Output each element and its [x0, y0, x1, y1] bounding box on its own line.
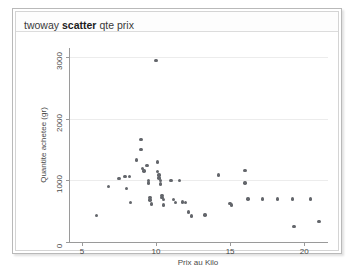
data-point: [292, 225, 295, 228]
data-point: [246, 197, 249, 200]
y-axis-title: Quantite achetee (gr): [38, 48, 48, 242]
graph-window-frame: twowayscatterqte prix Quantite achetee (…: [12, 8, 342, 254]
x-axis-tick-label: 10: [152, 247, 161, 256]
data-point: [178, 179, 181, 182]
data-point: [203, 213, 206, 216]
y-axis-tick-label-text: 2000: [56, 114, 64, 132]
gridline-horizontal: [70, 119, 328, 120]
data-point: [117, 177, 120, 180]
data-point: [95, 214, 98, 217]
y-axis-tick: [66, 119, 70, 120]
graph-window-inner: twowayscatterqte prix Quantite achetee (…: [15, 11, 339, 251]
data-point: [174, 201, 177, 204]
x-axis-tick-label: 20: [300, 247, 309, 256]
data-point: [162, 198, 165, 201]
y-axis-tick: [66, 242, 70, 243]
scatter-plot: Quantite achetee (gr) 010002000300051015…: [16, 32, 338, 250]
data-point: [184, 201, 187, 204]
data-point: [147, 181, 150, 184]
data-point: [125, 187, 128, 190]
data-point: [230, 203, 233, 206]
x-axis-tick-label: 15: [226, 247, 235, 256]
y-axis-tick-label-text: 3000: [56, 52, 64, 70]
x-axis-tick-label: 5: [80, 247, 84, 256]
y-axis-tick-label: 2000: [60, 123, 68, 141]
data-point: [107, 185, 110, 188]
x-axis-title: Prix au Kilo: [69, 258, 327, 267]
command-keyword: scatter: [62, 19, 96, 31]
y-axis-tick-label: 0: [60, 246, 68, 250]
data-point: [139, 138, 142, 141]
data-point: [135, 158, 138, 161]
command-line[interactable]: twowayscatterqte prix: [16, 12, 338, 32]
data-point: [243, 169, 246, 172]
data-point: [159, 182, 162, 185]
x-axis-tick: [82, 242, 83, 246]
data-point: [317, 220, 320, 223]
y-axis-tick-label: 3000: [60, 61, 68, 79]
data-point: [169, 179, 172, 182]
data-point: [156, 160, 159, 163]
y-axis-tick-label-text: 1000: [56, 176, 64, 194]
command-args: qte prix: [99, 19, 133, 31]
data-point: [150, 202, 153, 205]
y-axis-tick: [66, 57, 70, 58]
data-point: [190, 214, 193, 217]
data-point: [128, 175, 131, 178]
plot-area: 01000200030005101520: [69, 48, 328, 243]
data-point: [243, 181, 246, 184]
data-point: [154, 59, 157, 62]
gridline-horizontal: [70, 57, 328, 58]
x-axis-tick: [304, 242, 305, 246]
screenshot-root: twowayscatterqte prix Quantite achetee (…: [0, 0, 364, 280]
y-axis-tick-label: 1000: [60, 184, 68, 202]
data-point: [291, 197, 294, 200]
data-point: [123, 175, 126, 178]
data-point: [139, 148, 142, 151]
x-axis-tick: [156, 242, 157, 246]
data-point: [145, 164, 148, 167]
y-axis-tick: [66, 180, 70, 181]
data-point: [276, 197, 279, 200]
x-axis-tick: [230, 242, 231, 246]
data-point: [187, 210, 190, 213]
data-point: [142, 169, 145, 172]
gridline-horizontal: [70, 180, 328, 181]
y-axis-tick-label-text: 0: [56, 244, 64, 248]
data-point: [217, 173, 220, 176]
command-prefix: twoway: [24, 19, 59, 31]
data-point: [162, 203, 165, 206]
data-point: [261, 197, 264, 200]
data-point: [309, 197, 312, 200]
data-point: [129, 201, 132, 204]
